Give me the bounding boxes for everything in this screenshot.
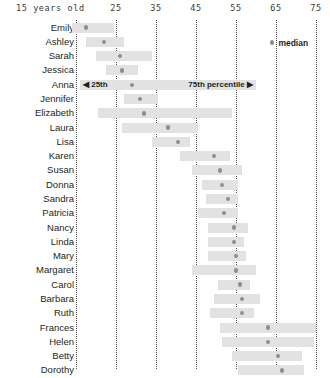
- plot-area: EmilyAshleySarahJessicaAnna◀ 25th75th pe…: [0, 20, 330, 373]
- x-axis-tick-label-65: 65: [270, 3, 281, 13]
- x-axis-tick-label-45: 45: [190, 3, 201, 13]
- chart-row: Frances: [0, 320, 330, 334]
- chart-row: Karen: [0, 149, 330, 163]
- chart-row: Ruth: [0, 306, 330, 320]
- row-label-sandra: Sandra: [43, 194, 74, 204]
- row-label-dorothy: Dorothy: [41, 366, 74, 376]
- row-label-linda: Linda: [51, 237, 74, 247]
- chart-row: Lisa: [0, 135, 330, 149]
- range-bar: [208, 237, 244, 247]
- row-label-emily: Emily: [51, 23, 74, 33]
- range-bar: [208, 251, 246, 261]
- chart-row: Carol: [0, 278, 330, 292]
- row-label-lisa: Lisa: [57, 137, 74, 147]
- chart-row: Barbara: [0, 292, 330, 306]
- legend: median: [270, 38, 308, 47]
- chart-row: Betty: [0, 349, 330, 363]
- range-bar: [210, 308, 254, 318]
- row-label-mary: Mary: [53, 251, 74, 261]
- median-dot: [220, 183, 224, 187]
- row-label-karen: Karen: [49, 151, 74, 161]
- median-dot: [238, 282, 242, 286]
- row-label-susan: Susan: [47, 166, 74, 176]
- annotation-left: ◀ 25th: [83, 81, 108, 89]
- x-axis-tick-label-55: 55: [230, 3, 241, 13]
- range-bar: [180, 151, 230, 161]
- median-dot: [142, 111, 146, 115]
- chart-row: Donna: [0, 178, 330, 192]
- range-bar: [72, 23, 114, 33]
- range-bar: [122, 123, 198, 133]
- row-label-barbara: Barbara: [40, 294, 74, 304]
- chart-row: Elizabeth: [0, 106, 330, 120]
- median-dot: [232, 225, 236, 229]
- row-label-nancy: Nancy: [47, 223, 74, 233]
- range-bar: [232, 351, 302, 361]
- chart-row: Helen: [0, 335, 330, 349]
- row-label-betty: Betty: [52, 351, 74, 361]
- row-label-jessica: Jessica: [42, 66, 74, 76]
- row-label-anna: Anna: [52, 80, 74, 90]
- x-axis-tick-label-75: 75: [310, 3, 321, 13]
- range-bar: [98, 108, 232, 118]
- row-label-helen: Helen: [49, 337, 74, 347]
- median-dot: [280, 368, 284, 372]
- range-bar: [214, 294, 260, 304]
- range-bar: [152, 137, 190, 147]
- range-bar: [208, 223, 248, 233]
- x-axis-header: 15 years old253545556575: [0, 0, 330, 20]
- row-label-frances: Frances: [40, 323, 74, 333]
- row-label-ruth: Ruth: [54, 308, 74, 318]
- row-label-laura: Laura: [50, 123, 74, 133]
- median-dot: [130, 83, 134, 87]
- row-label-ashley: Ashley: [45, 37, 74, 47]
- range-bar: [198, 208, 238, 218]
- chart-row: Emily: [0, 21, 330, 35]
- median-dot: [166, 125, 170, 129]
- x-axis-tick-label-25: 25: [110, 3, 121, 13]
- row-label-sarah: Sarah: [49, 51, 74, 61]
- range-bar: [192, 265, 256, 275]
- chart-row: Sandra: [0, 192, 330, 206]
- row-label-patricia: Patricia: [42, 209, 74, 219]
- chart-row: Jennifer: [0, 92, 330, 106]
- range-bar: [238, 365, 304, 375]
- chart-row: Jessica: [0, 63, 330, 77]
- chart-row: Nancy: [0, 220, 330, 234]
- median-dot: [234, 268, 238, 272]
- range-bar: [218, 280, 250, 290]
- chart-row: Margaret: [0, 263, 330, 277]
- range-bar: [96, 51, 152, 61]
- row-label-carol: Carol: [51, 280, 74, 290]
- row-label-elizabeth: Elizabeth: [35, 109, 74, 119]
- median-dot: [266, 325, 270, 329]
- chart-row: Dorothy: [0, 363, 330, 377]
- median-dot: [84, 25, 88, 29]
- row-label-donna: Donna: [46, 180, 74, 190]
- annotation-right: 75th percentile ▶: [188, 81, 253, 89]
- chart-row: Susan: [0, 163, 330, 177]
- median-dot: [218, 168, 222, 172]
- median-dot: [120, 68, 124, 72]
- x-axis-tick-label-15: 15 years old: [16, 3, 85, 13]
- chart-row: Sarah: [0, 49, 330, 63]
- chart-row: Laura: [0, 120, 330, 134]
- chart-row: Linda: [0, 235, 330, 249]
- x-axis-tick-label-35: 35: [150, 3, 161, 13]
- range-bar: [206, 194, 238, 204]
- chart-row: Mary: [0, 249, 330, 263]
- median-legend-dot-icon: [270, 40, 274, 44]
- row-label-jennifer: Jennifer: [40, 94, 74, 104]
- row-label-margaret: Margaret: [36, 266, 74, 276]
- chart-row: Patricia: [0, 206, 330, 220]
- legend-label-median: median: [278, 38, 308, 48]
- chart-row: Anna◀ 25th75th percentile ▶: [0, 78, 330, 92]
